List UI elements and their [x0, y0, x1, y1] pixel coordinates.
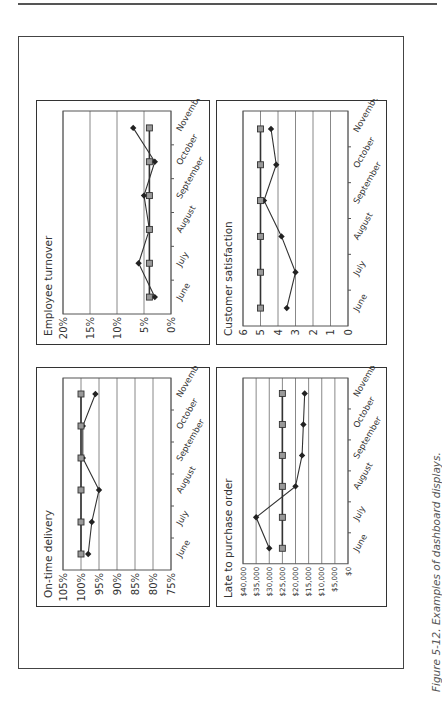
svg-text:$10,000: $10,000 — [317, 566, 326, 596]
line-chart: 0123456JuneJulyAugustSeptemberOctoberNov… — [217, 99, 388, 344]
svg-text:August: August — [351, 460, 375, 491]
svg-text:July: July — [351, 259, 368, 278]
svg-text:$0: $0 — [344, 566, 353, 576]
chart-panel: Late to purchase order$0$5,000$10,000$15… — [216, 367, 387, 607]
chart-panel: On-time delivery75%80%85%90%95%100%105%J… — [36, 367, 210, 607]
svg-text:November: November — [351, 99, 382, 134]
svg-text:95%: 95% — [94, 573, 105, 595]
svg-text:5%: 5% — [139, 317, 150, 333]
svg-text:100%: 100% — [76, 573, 87, 602]
svg-text:June: June — [351, 532, 369, 554]
svg-text:3: 3 — [290, 329, 301, 335]
line-chart: 75%80%85%90%95%100%105%JuneJulyAugustSep… — [37, 366, 211, 606]
svg-text:$35,000: $35,000 — [252, 566, 261, 596]
svg-text:0%: 0% — [166, 317, 177, 333]
line-chart: $0$5,000$10,000$15,000$20,000$25,000$30,… — [217, 366, 388, 606]
svg-text:2: 2 — [308, 329, 319, 335]
svg-text:November: November — [351, 366, 382, 398]
figure-caption: Figure 5-12. Examples of dashboard displ… — [430, 452, 442, 692]
chart-panel: Customer satisfaction0123456JuneJulyAugu… — [216, 100, 387, 345]
svg-text:80%: 80% — [148, 573, 159, 595]
svg-text:90%: 90% — [112, 573, 123, 595]
chart-panel: Employee turnover0%5%10%15%20%JuneJulyAu… — [36, 100, 210, 345]
svg-text:July: July — [351, 504, 368, 523]
svg-text:July: July — [174, 250, 191, 269]
svg-text:75%: 75% — [166, 573, 177, 595]
svg-text:June: June — [174, 538, 192, 560]
top-rule — [18, 3, 437, 5]
svg-text:1: 1 — [325, 329, 336, 335]
svg-text:July: July — [174, 509, 191, 528]
svg-text:August: August — [174, 203, 198, 234]
svg-text:June: June — [351, 292, 369, 314]
svg-text:5: 5 — [255, 329, 266, 335]
svg-text:November: November — [174, 99, 205, 133]
svg-text:November: November — [174, 366, 205, 399]
panel-customer-satisfaction: Customer satisfaction0123456JuneJulyAugu… — [216, 100, 387, 345]
svg-text:105%: 105% — [58, 573, 69, 602]
svg-text:$15,000: $15,000 — [304, 566, 313, 596]
panel-on-time-delivery: On-time delivery75%80%85%90%95%100%105%J… — [36, 367, 210, 607]
panel-employee-turnover: Employee turnover0%5%10%15%20%JuneJulyAu… — [36, 100, 210, 345]
svg-text:$30,000: $30,000 — [265, 566, 274, 596]
svg-text:$5,000: $5,000 — [330, 566, 339, 592]
svg-text:0: 0 — [343, 329, 354, 335]
line-chart: 0%5%10%15%20%JuneJulyAugustSeptemberOcto… — [37, 99, 211, 344]
svg-text:June: June — [174, 281, 192, 303]
svg-text:4: 4 — [273, 329, 284, 335]
svg-text:August: August — [174, 464, 198, 495]
svg-text:$20,000: $20,000 — [291, 566, 300, 596]
svg-text:$40,000: $40,000 — [239, 566, 248, 596]
svg-text:6: 6 — [238, 329, 249, 335]
svg-text:15%: 15% — [85, 317, 96, 339]
svg-text:$25,000: $25,000 — [278, 566, 287, 596]
svg-text:10%: 10% — [112, 317, 123, 339]
svg-text:85%: 85% — [130, 573, 141, 595]
svg-text:August: August — [351, 210, 375, 241]
panel-late-to-purchase-order: Late to purchase order$0$5,000$10,000$15… — [216, 367, 387, 607]
svg-text:20%: 20% — [58, 317, 69, 339]
